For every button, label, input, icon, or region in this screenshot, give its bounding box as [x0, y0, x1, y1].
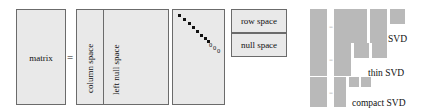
compact-svd-block-a	[310, 77, 327, 107]
thin-svd-equals-sign: =	[329, 57, 333, 64]
column-space-label: column space	[86, 44, 95, 93]
sigma-zero: 0	[209, 42, 212, 49]
svd-subspaces-figure: matrix = column space left null space 0 …	[0, 0, 428, 112]
compact-svd-block-sigma	[349, 77, 359, 87]
sigma-dot	[183, 18, 186, 21]
sigma-panel	[172, 9, 225, 105]
sigma-zero: 0	[213, 45, 216, 52]
svd-block-sigma	[370, 9, 387, 43]
svd-equals-sign: =	[329, 24, 333, 31]
compact-svd-block-vt	[361, 77, 371, 87]
equals-sign: =	[67, 52, 73, 63]
svd-block-a	[310, 9, 327, 43]
u-panel-divider	[103, 10, 104, 104]
svd-block-u	[334, 9, 367, 43]
compact-svd-equals-sign: =	[329, 90, 333, 97]
compact-svd-block-u	[334, 77, 346, 107]
sigma-dot	[192, 26, 195, 29]
sigma-dot	[188, 22, 191, 25]
svd-caption: SVD	[388, 35, 407, 45]
matrix-label: matrix	[26, 54, 56, 63]
thin-svd-block-a	[310, 43, 327, 76]
thin-svd-block-sigma	[354, 43, 369, 58]
thin-svd-caption: thin SVD	[368, 69, 404, 79]
sigma-dot	[178, 14, 181, 17]
null-space-label: null space	[231, 41, 287, 50]
sigma-dot	[196, 30, 199, 33]
compact-svd-caption: compact SVD	[352, 99, 406, 109]
sigma-dot	[200, 34, 203, 37]
sigma-zero: 0	[217, 48, 220, 55]
thin-svd-block-vt	[372, 43, 387, 58]
row-space-label: row space	[231, 17, 287, 26]
left-null-space-label: left null space	[112, 45, 121, 95]
thin-svd-block-u	[334, 43, 351, 76]
svd-block-vt	[390, 9, 405, 24]
